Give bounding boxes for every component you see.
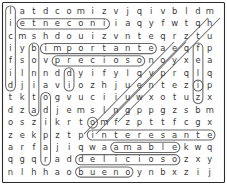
- grid-cell[interactable]: j: [20, 80, 23, 90]
- grid-cell[interactable]: c: [8, 31, 13, 41]
- grid-cell[interactable]: g: [125, 105, 130, 115]
- grid-cell[interactable]: w: [89, 142, 96, 152]
- grid-cell[interactable]: j: [126, 6, 129, 16]
- grid-cell[interactable]: e: [207, 130, 212, 140]
- grid-cell[interactable]: x: [172, 167, 177, 177]
- grid-cell[interactable]: n: [31, 68, 36, 78]
- grid-cell[interactable]: z: [184, 80, 189, 90]
- grid-cell[interactable]: b: [31, 43, 36, 53]
- grid-cell[interactable]: r: [173, 68, 177, 78]
- grid-cell[interactable]: k: [55, 117, 60, 127]
- grid-cell[interactable]: x: [149, 92, 154, 102]
- grid-cell[interactable]: o: [78, 80, 83, 90]
- grid-cell[interactable]: a: [125, 18, 130, 28]
- grid-cell[interactable]: y: [78, 68, 83, 78]
- grid-cell[interactable]: o: [125, 167, 130, 177]
- grid-cell[interactable]: n: [148, 80, 153, 90]
- grid-cell[interactable]: z: [55, 130, 60, 140]
- grid-cell[interactable]: r: [91, 43, 95, 53]
- grid-cell[interactable]: p: [160, 68, 165, 78]
- grid-cell[interactable]: b: [148, 142, 153, 152]
- grid-cell[interactable]: e: [149, 130, 154, 140]
- grid-cell[interactable]: g: [160, 105, 165, 115]
- grid-cell[interactable]: o: [67, 31, 72, 41]
- grid-cell[interactable]: a: [113, 142, 118, 152]
- grid-cell[interactable]: o: [78, 43, 83, 53]
- grid-cell[interactable]: o: [43, 92, 48, 102]
- grid-cell[interactable]: d: [78, 154, 83, 164]
- grid-cell[interactable]: k: [32, 130, 37, 140]
- grid-cell[interactable]: q: [160, 31, 165, 41]
- grid-cell[interactable]: a: [31, 105, 36, 115]
- grid-cell[interactable]: a: [113, 43, 118, 53]
- grid-cell[interactable]: v: [113, 31, 118, 41]
- grid-cell[interactable]: q: [31, 154, 36, 164]
- grid-cell[interactable]: n: [113, 105, 118, 115]
- grid-cell[interactable]: c: [125, 154, 130, 164]
- grid-cell[interactable]: z: [184, 31, 189, 41]
- grid-cell[interactable]: a: [172, 130, 177, 140]
- grid-cell[interactable]: e: [125, 130, 130, 140]
- grid-cell[interactable]: s: [126, 55, 130, 65]
- grid-cell[interactable]: x: [207, 117, 212, 127]
- grid-cell[interactable]: q: [207, 68, 212, 78]
- grid-cell[interactable]: o: [113, 55, 118, 65]
- grid-cell[interactable]: h: [43, 31, 48, 41]
- grid-cell[interactable]: v: [43, 55, 48, 65]
- grid-cell[interactable]: d: [66, 68, 71, 78]
- grid-cell[interactable]: o: [90, 117, 95, 127]
- grid-cell[interactable]: d: [66, 154, 71, 164]
- grid-cell[interactable]: r: [173, 31, 177, 41]
- grid-cell[interactable]: h: [102, 80, 107, 90]
- grid-cell[interactable]: o: [67, 6, 72, 16]
- grid-cell[interactable]: r: [138, 130, 142, 140]
- grid-cell[interactable]: x: [184, 55, 189, 65]
- grid-cell[interactable]: h: [31, 167, 36, 177]
- grid-cell[interactable]: z: [184, 154, 189, 164]
- grid-cell[interactable]: n: [43, 18, 48, 28]
- grid-cell[interactable]: j: [114, 80, 117, 90]
- grid-cell[interactable]: v: [113, 6, 118, 16]
- grid-cell[interactable]: z: [8, 130, 13, 140]
- grid-cell[interactable]: z: [90, 80, 95, 90]
- grid-cell[interactable]: e: [195, 55, 200, 65]
- grid-cell[interactable]: u: [78, 31, 83, 41]
- grid-cell[interactable]: e: [20, 130, 25, 140]
- grid-cell[interactable]: s: [32, 31, 36, 41]
- grid-cell[interactable]: q: [207, 142, 212, 152]
- grid-cell[interactable]: d: [55, 68, 60, 78]
- grid-cell[interactable]: i: [103, 18, 105, 28]
- grid-cell[interactable]: o: [78, 18, 83, 28]
- grid-cell[interactable]: v: [149, 68, 154, 78]
- grid-cell[interactable]: o: [31, 55, 36, 65]
- grid-cell[interactable]: d: [55, 31, 60, 41]
- grid-cell[interactable]: m: [206, 105, 214, 115]
- grid-cell[interactable]: l: [185, 6, 187, 16]
- grid-cell[interactable]: e: [55, 18, 60, 28]
- grid-cell[interactable]: k: [184, 142, 189, 152]
- grid-cell[interactable]: e: [20, 18, 25, 28]
- grid-cell[interactable]: i: [91, 68, 93, 78]
- grid-cell[interactable]: p: [78, 130, 83, 140]
- grid-cell[interactable]: x: [207, 92, 212, 102]
- grid-cell[interactable]: i: [33, 80, 35, 90]
- grid-cell[interactable]: b: [195, 105, 200, 115]
- grid-cell[interactable]: e: [78, 55, 83, 65]
- grid-cell[interactable]: p: [137, 105, 142, 115]
- grid-cell[interactable]: m: [100, 117, 108, 127]
- grid-cell[interactable]: l: [162, 142, 164, 152]
- grid-cell[interactable]: a: [102, 142, 107, 152]
- grid-cell[interactable]: i: [68, 80, 70, 90]
- grid-cell[interactable]: e: [67, 105, 72, 115]
- grid-cell[interactable]: s: [161, 154, 165, 164]
- grid-cell[interactable]: c: [55, 6, 60, 16]
- grid-cell[interactable]: y: [113, 68, 118, 78]
- grid-cell[interactable]: n: [148, 167, 153, 177]
- grid-cell[interactable]: d: [43, 105, 48, 115]
- grid-cell[interactable]: y: [149, 18, 154, 28]
- grid-cell[interactable]: a: [55, 154, 60, 164]
- grid-cell[interactable]: i: [103, 92, 105, 102]
- grid-cell[interactable]: b: [172, 6, 177, 16]
- grid-cell[interactable]: s: [184, 105, 188, 115]
- grid-cell[interactable]: i: [103, 55, 105, 65]
